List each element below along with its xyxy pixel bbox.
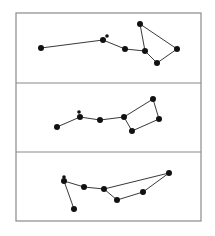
star-dot <box>100 37 106 43</box>
star-dot <box>166 170 172 176</box>
star-dot <box>97 117 103 123</box>
connecting-line <box>104 173 169 189</box>
connecting-line <box>140 24 145 51</box>
panel-middle <box>54 96 162 134</box>
connecting-line <box>103 40 125 49</box>
star-dot <box>114 197 120 203</box>
star-dot <box>105 34 109 38</box>
star-dot <box>81 184 87 190</box>
panel-bottom <box>61 170 172 212</box>
connecting-line <box>132 119 159 131</box>
connecting-line <box>41 40 103 48</box>
star-dot <box>38 45 44 51</box>
connecting-line <box>57 117 80 127</box>
star-dot <box>150 96 156 102</box>
star-dot <box>140 189 146 195</box>
diagram-frame <box>16 13 201 221</box>
star-dot <box>62 175 66 179</box>
connecting-line <box>117 192 143 200</box>
connecting-line <box>140 24 177 49</box>
connecting-line <box>100 117 124 120</box>
star-dot <box>77 114 83 120</box>
star-dot <box>77 110 81 114</box>
connecting-line <box>84 187 104 189</box>
connecting-line <box>157 49 177 63</box>
star-dot <box>122 46 128 52</box>
star-dot <box>142 48 148 54</box>
panel-dividers <box>16 83 201 152</box>
star-dot <box>137 21 143 27</box>
connecting-line <box>125 49 145 51</box>
connecting-line <box>124 99 153 117</box>
star-dot <box>154 60 160 66</box>
star-dot <box>156 116 162 122</box>
star-dot <box>71 206 77 212</box>
star-dot <box>121 114 127 120</box>
star-dot <box>129 128 135 134</box>
connecting-line <box>64 181 84 187</box>
constellation-panels <box>38 21 180 212</box>
star-dot <box>61 178 67 184</box>
connecting-line <box>153 99 159 119</box>
big-dipper-diagram <box>0 0 215 236</box>
panel-top <box>38 21 180 66</box>
star-dot <box>174 46 180 52</box>
star-dot <box>54 124 60 130</box>
connecting-line <box>80 117 100 120</box>
star-dot <box>101 186 107 192</box>
connecting-line <box>64 181 74 209</box>
